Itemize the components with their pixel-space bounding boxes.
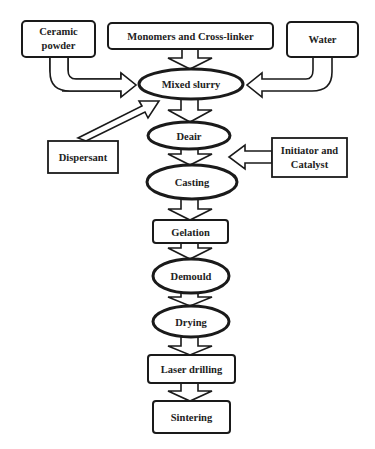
node-dispersant: Dispersant xyxy=(48,141,118,173)
node-gelation: Gelation xyxy=(153,220,228,243)
node-casting-label: Casting xyxy=(175,177,210,188)
node-demould-label: Demould xyxy=(171,271,212,282)
arrow-initiator-to-process xyxy=(229,145,272,169)
arrow-deair-to-casting xyxy=(168,149,212,165)
arrow-ceramic-to-slurry-body xyxy=(50,57,136,97)
node-initiator-line1: Initiator and xyxy=(281,145,338,156)
node-sintering: Sintering xyxy=(153,401,230,433)
arrow-drying-to-laser xyxy=(168,337,212,355)
arrow-monomers-to-slurry xyxy=(168,49,212,69)
node-sintering-label: Sintering xyxy=(171,412,213,423)
node-water-label: Water xyxy=(309,34,337,45)
node-mixed-slurry-label: Mixed slurry xyxy=(162,79,221,90)
arrow-demould-to-drying xyxy=(168,293,212,306)
node-laser-drilling: Laser drilling xyxy=(148,355,235,383)
arrow-laser-to-sintering xyxy=(168,383,212,401)
node-initiator-line2: Catalyst xyxy=(291,159,329,170)
arrow-gelation-to-demould xyxy=(168,243,212,259)
arrow-casting-to-gelation xyxy=(168,199,212,220)
node-ceramic-powder: Ceramic powder xyxy=(22,21,95,57)
node-deair-label: Deair xyxy=(176,131,201,142)
arrow-water-to-slurry xyxy=(247,57,332,97)
process-flowchart: Ceramic powder Monomers and Cross-linker… xyxy=(0,0,375,449)
node-drying: Drying xyxy=(153,306,229,337)
node-initiator-catalyst: Initiator and Catalyst xyxy=(272,138,347,177)
node-monomers-label: Monomers and Cross-linker xyxy=(127,31,254,42)
node-gelation-label: Gelation xyxy=(171,227,210,238)
node-water: Water xyxy=(287,22,358,57)
node-deair: Deair xyxy=(148,122,230,149)
arrow-slurry-to-deair xyxy=(168,99,212,122)
node-dispersant-label: Dispersant xyxy=(59,152,108,163)
node-demould: Demould xyxy=(153,259,229,293)
node-ceramic-powder-line2: powder xyxy=(42,40,76,51)
node-laser-drilling-label: Laser drilling xyxy=(161,364,223,375)
node-mixed-slurry: Mixed slurry xyxy=(139,69,243,99)
node-casting: Casting xyxy=(147,165,237,199)
node-drying-label: Drying xyxy=(175,317,207,328)
node-monomers: Monomers and Cross-linker xyxy=(108,23,273,49)
node-ceramic-powder-line1: Ceramic xyxy=(39,26,78,37)
